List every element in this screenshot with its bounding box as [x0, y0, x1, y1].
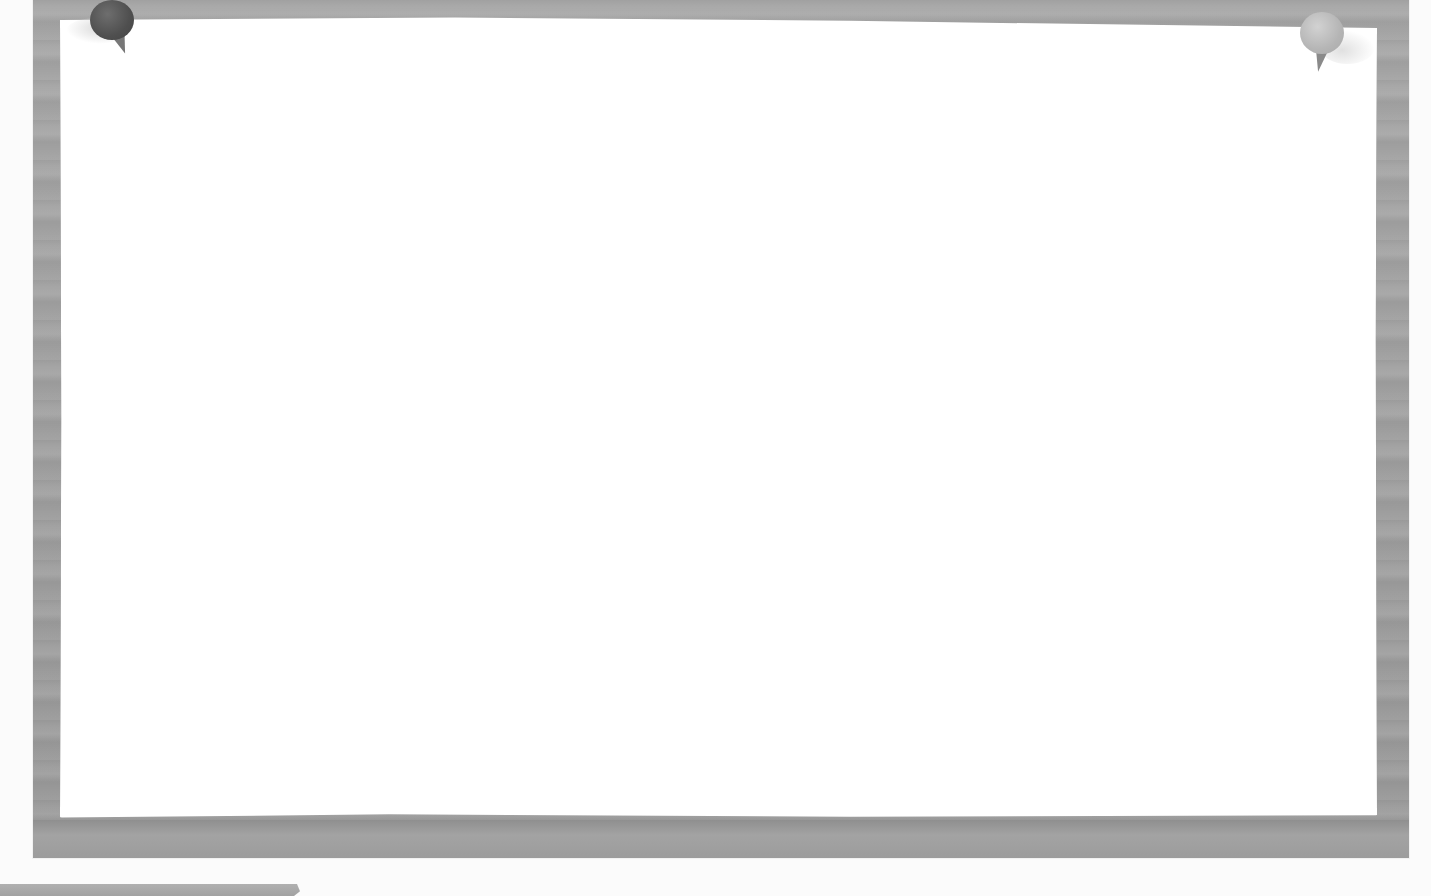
push-pin-right-icon [1298, 10, 1348, 74]
board-bottom-edge [33, 820, 1409, 858]
bottom-wood-strip [0, 884, 300, 896]
paper-content-area [60, 16, 1377, 820]
pin-head [90, 0, 134, 40]
push-pin-left-icon [88, 0, 136, 56]
pin-head [1300, 12, 1344, 54]
